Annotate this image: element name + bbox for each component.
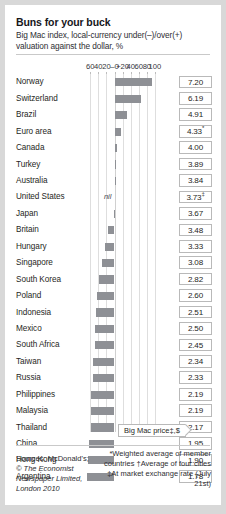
chart-row: Australia3.84 xyxy=(5,173,221,189)
chart-card: Buns for your buck Big Mac index, local-… xyxy=(5,5,221,505)
country-label: Australia xyxy=(16,176,47,185)
value-bar xyxy=(99,275,114,283)
value-bar xyxy=(91,391,114,399)
chart-row: Britain3.48 xyxy=(5,222,221,238)
chart-row: Brazil4.91 xyxy=(5,107,221,123)
price-value: 3.89 xyxy=(179,158,212,171)
country-label: South Africa xyxy=(16,340,60,349)
price-value: 1.95 xyxy=(179,437,212,450)
price-value: 2.34 xyxy=(179,355,212,368)
chart-row: Poland2.60 xyxy=(5,288,221,304)
chart-title: Buns for your buck xyxy=(16,16,110,28)
value-bar xyxy=(95,325,114,333)
plot-area: 604020–0+20406080100 Norway7.20Switzerla… xyxy=(5,62,221,442)
price-value: 3.73‡ xyxy=(179,191,212,204)
chart-row: Russia2.33 xyxy=(5,370,221,386)
price-value: 3.08 xyxy=(179,256,212,269)
price-value: 2.45 xyxy=(179,339,212,352)
value-bar xyxy=(115,78,152,86)
chart-row: South Africa2.45 xyxy=(5,337,221,353)
value-bar xyxy=(105,243,114,251)
price-value: 4.91 xyxy=(179,108,212,121)
price-value: 2.19 xyxy=(179,404,212,417)
value-bar xyxy=(93,374,115,382)
price-value: 3.48 xyxy=(179,224,212,237)
chart-row: Japan3.67 xyxy=(5,206,221,222)
price-footnote-marker: ‡ xyxy=(201,191,204,197)
footnote-line-2: countries †Average of four cities xyxy=(104,459,211,468)
country-label: South Korea xyxy=(16,275,61,284)
footnotes-block: *Weighted average of member countries †A… xyxy=(91,449,211,489)
price-value: 3.67 xyxy=(179,207,212,220)
value-bar xyxy=(115,128,121,136)
bar-rows: Norway7.20Switzerland6.19Brazil4.91Euro … xyxy=(5,74,221,485)
price-value: 4.33* xyxy=(179,125,212,138)
country-label: Philippines xyxy=(16,390,55,399)
divider-bottom xyxy=(16,445,210,446)
country-label: Switzerland xyxy=(16,94,58,103)
chart-row: Norway7.20 xyxy=(5,74,221,90)
value-bar xyxy=(93,358,114,366)
value-bar xyxy=(115,111,128,119)
country-label: Britain xyxy=(16,225,39,234)
price-callout-label: Big Mac price‡,$ xyxy=(124,426,180,435)
value-bar xyxy=(115,95,142,103)
country-label: Singapore xyxy=(16,258,53,267)
divider-top xyxy=(16,54,210,55)
country-label: Turkey xyxy=(16,160,40,169)
value-bar xyxy=(91,407,114,415)
country-label: Canada xyxy=(16,143,44,152)
price-value: 2.33 xyxy=(179,371,212,384)
value-bar xyxy=(102,259,114,267)
chart-row: Canada4.00 xyxy=(5,140,221,156)
price-value: 6.19 xyxy=(179,92,212,105)
price-value: 2.60 xyxy=(179,289,212,302)
country-label: Indonesia xyxy=(16,308,51,317)
chart-row: Euro area4.33* xyxy=(5,123,221,139)
chart-row: South Korea2.82 xyxy=(5,271,221,287)
sources-line-4: London 2010 xyxy=(16,484,60,493)
price-value: 2.50 xyxy=(179,322,212,335)
price-callout: Big Mac price‡,$ xyxy=(118,424,186,437)
country-label: Russia xyxy=(16,373,41,382)
value-bar xyxy=(91,423,115,431)
footnote-line-1: *Weighted average of member xyxy=(109,449,211,458)
country-label: Taiwan xyxy=(16,357,41,366)
value-bar xyxy=(95,341,114,349)
price-value: 2.51 xyxy=(179,306,212,319)
sources-line-3: Newspaper Limited, xyxy=(16,474,82,483)
chart-row: Philippines2.19 xyxy=(5,386,221,402)
price-value: 4.00 xyxy=(179,141,212,154)
value-bar xyxy=(89,440,115,448)
price-value: 3.33 xyxy=(179,240,212,253)
sources-line-2: © The Economist xyxy=(16,464,74,473)
price-footnote-marker: * xyxy=(202,125,204,131)
chart-row: Switzerland6.19 xyxy=(5,90,221,106)
chart-row: United Statesnil3.73‡ xyxy=(5,189,221,205)
price-value: 2.82 xyxy=(179,273,212,286)
value-bar xyxy=(97,292,115,300)
chart-row: Turkey3.89 xyxy=(5,156,221,172)
value-bar xyxy=(96,308,115,316)
country-label: China xyxy=(16,439,37,448)
chart-row: Hungary3.33 xyxy=(5,238,221,254)
footnote-line-3: ‡At market exchange rate (July 21st) xyxy=(107,469,211,488)
x-axis-label: 100 xyxy=(149,62,162,71)
country-label: Brazil xyxy=(16,110,36,119)
value-bar xyxy=(114,210,115,218)
value-bar xyxy=(115,144,118,152)
price-value: 7.20 xyxy=(179,76,212,89)
country-label: Japan xyxy=(16,209,38,218)
chart-row: Indonesia2.51 xyxy=(5,304,221,320)
price-value: 3.84 xyxy=(179,174,212,187)
country-label: United States xyxy=(16,192,65,201)
nil-annotation: nil xyxy=(104,192,115,201)
value-bar xyxy=(115,177,116,185)
country-label: Thailand xyxy=(16,423,47,432)
sources-line-1: Sources: McDonald's; xyxy=(16,454,89,463)
chart-subtitle: Big Mac index, local-currency under(–)/o… xyxy=(16,30,212,51)
country-label: Euro area xyxy=(16,127,52,136)
price-value: 2.19 xyxy=(179,388,212,401)
country-label: Norway xyxy=(16,77,43,86)
value-bar xyxy=(108,226,115,234)
